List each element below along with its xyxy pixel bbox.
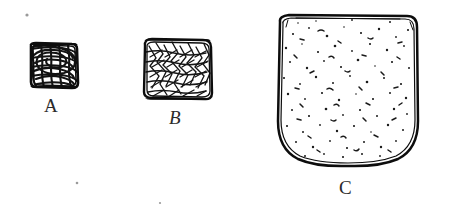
specimen-c bbox=[278, 15, 418, 166]
specimen-a-fill bbox=[30, 44, 78, 88]
specimen-label-a: A bbox=[44, 96, 58, 115]
figure-canvas: A B C bbox=[0, 0, 450, 216]
specimen-drawing bbox=[0, 0, 450, 216]
specimen-a bbox=[30, 43, 78, 88]
specimen-c-outline bbox=[278, 15, 418, 166]
specimen-c-stipple-dashes bbox=[294, 30, 402, 152]
specimen-label-c: C bbox=[339, 178, 352, 197]
specimen-label-b: B bbox=[169, 108, 181, 127]
specimen-c-fill bbox=[283, 19, 410, 158]
specimen-b-fill bbox=[144, 40, 212, 99]
specimen-b bbox=[144, 39, 212, 99]
